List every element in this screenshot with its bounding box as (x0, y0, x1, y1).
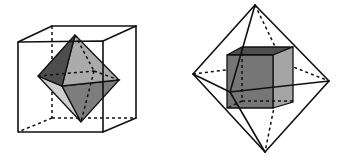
inner-cube (227, 47, 293, 108)
panel-cube-in-octahedron (193, 5, 329, 152)
figure-canvas (0, 0, 346, 163)
octahedron-face-lower-right (62, 80, 119, 122)
panel-octahedron-in-cube (18, 26, 136, 132)
cube-face-right (273, 47, 293, 108)
inner-octahedron (38, 35, 119, 122)
